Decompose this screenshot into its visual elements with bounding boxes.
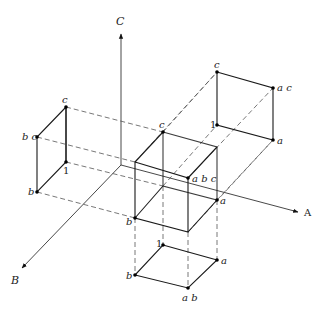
label-right-a: a [277,135,283,146]
label-right-ac: a c [277,82,292,93]
left-projection-square: c b c 1 b [22,94,69,197]
right-projection-square: c a c 1 a [210,59,292,146]
label-cube-c: c [159,119,165,130]
factorial-cube-diagram: C A B c b c 1 b [0,0,323,310]
label-right-1: 1 [210,119,216,130]
axis-label-c: C [116,15,125,28]
central-cube: c a b c a b [126,119,226,232]
axis-label-a: A [303,207,312,218]
label-right-c: c [214,59,220,70]
label-cube-a: a [220,195,226,206]
label-bottom-a: a [221,255,227,266]
label-bottom-1: 1 [156,238,162,249]
bottom-projection-square: 1 a b a b [126,238,227,303]
label-left-1: 1 [63,165,69,176]
label-left-bc: b c [22,131,38,142]
axis-label-b: B [10,274,19,287]
label-bottom-ab: a b [182,292,198,303]
label-bottom-b: b [126,270,132,281]
label-cube-abc: a b c [192,173,217,184]
projection-lines [37,72,273,288]
label-left-c: c [62,94,68,105]
label-cube-b: b [126,216,132,227]
label-left-b: b [28,186,34,197]
